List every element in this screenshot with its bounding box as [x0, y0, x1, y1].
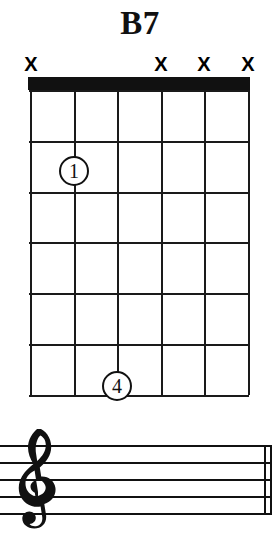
staff-line-2 [0, 462, 272, 464]
fret-line-5 [29, 344, 249, 346]
fret-line-6 [29, 395, 249, 397]
fret-line-3 [29, 242, 249, 244]
chord-diagram-fretboard: 14 [30, 77, 248, 395]
fret-line-1 [29, 141, 249, 143]
string-line-3 [117, 90, 119, 395]
barline-2 [270, 445, 272, 515]
string-line-1 [30, 90, 32, 395]
fret-line-0 [29, 90, 249, 92]
string-marker-row: XXXX [0, 53, 280, 77]
finger-dot-1: 1 [59, 156, 89, 186]
staff-line-3 [0, 479, 272, 481]
nut-bar [28, 77, 250, 90]
fret-line-2 [29, 192, 249, 194]
staff-line-5 [0, 513, 272, 515]
string-line-4 [161, 90, 163, 395]
fret-grid: 14 [30, 90, 248, 395]
string-marker-1-muted: X [20, 53, 42, 75]
string-marker-5-muted: X [193, 53, 215, 75]
string-line-6 [248, 90, 250, 395]
staff-line-4 [0, 496, 272, 498]
string-marker-6-muted: X [237, 53, 259, 75]
string-line-5 [204, 90, 206, 395]
string-marker-4-muted: X [150, 53, 172, 75]
fret-line-4 [29, 293, 249, 295]
barline-1 [264, 445, 266, 515]
chord-name-title: B7 [0, 2, 280, 44]
string-line-2 [74, 90, 76, 395]
staff-line-1 [0, 445, 272, 447]
finger-dot-4: 4 [102, 371, 132, 401]
music-staff [0, 438, 280, 538]
